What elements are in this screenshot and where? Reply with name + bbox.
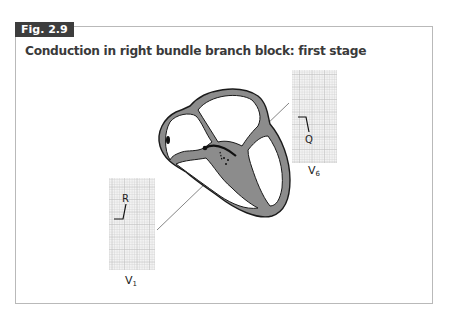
ecg-strip-v1: R V1	[109, 178, 155, 288]
heart-illustration	[159, 89, 290, 217]
sinus-node	[166, 136, 170, 144]
lead-label-v6: V6	[308, 164, 321, 178]
ecg-strip-v6: Q V6	[292, 70, 337, 178]
wave-label-r: R	[122, 193, 129, 204]
diagram-canvas: Q V6 R V1	[0, 0, 456, 322]
wave-label-q: Q	[305, 134, 313, 145]
conduction-dot	[223, 157, 225, 159]
conduction-dot	[227, 159, 229, 161]
lead-label-v1: V1	[125, 274, 137, 288]
conduction-dot	[225, 163, 227, 165]
